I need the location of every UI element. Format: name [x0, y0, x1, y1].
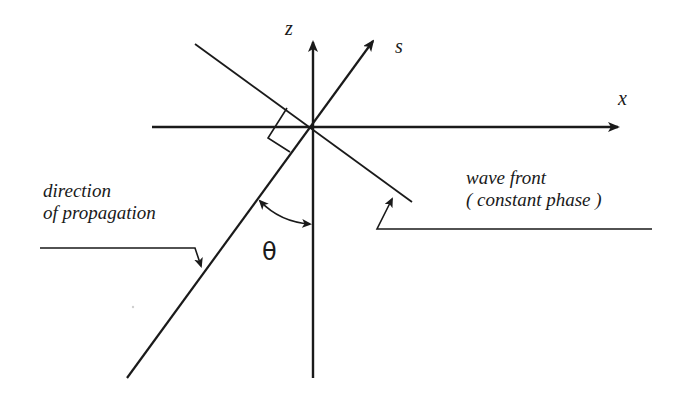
wave-front-label: wave front ( constant phase ): [466, 167, 602, 211]
wave-front-line: [195, 44, 412, 202]
theta-angle-arc: [260, 201, 310, 224]
direction-of-propagation-label: direction of propagation: [43, 180, 156, 224]
s-axis: [127, 41, 373, 378]
direction-label-line2: of propagation: [43, 202, 156, 224]
direction-label-line1: direction: [43, 180, 156, 202]
direction-leader-arrow: [40, 248, 201, 266]
wave-propagation-diagram: z s x θ direction of propagation wave fr…: [0, 0, 685, 408]
x-axis-label: x: [618, 88, 627, 108]
scan-speck: [132, 306, 134, 308]
right-angle-marker: [268, 108, 290, 152]
wavefront-label-line2: ( constant phase ): [466, 189, 602, 211]
z-axis-label: z: [285, 18, 293, 38]
s-axis-label: s: [395, 36, 403, 56]
theta-label: θ: [262, 240, 277, 264]
wavefront-label-line1: wave front: [466, 167, 602, 189]
